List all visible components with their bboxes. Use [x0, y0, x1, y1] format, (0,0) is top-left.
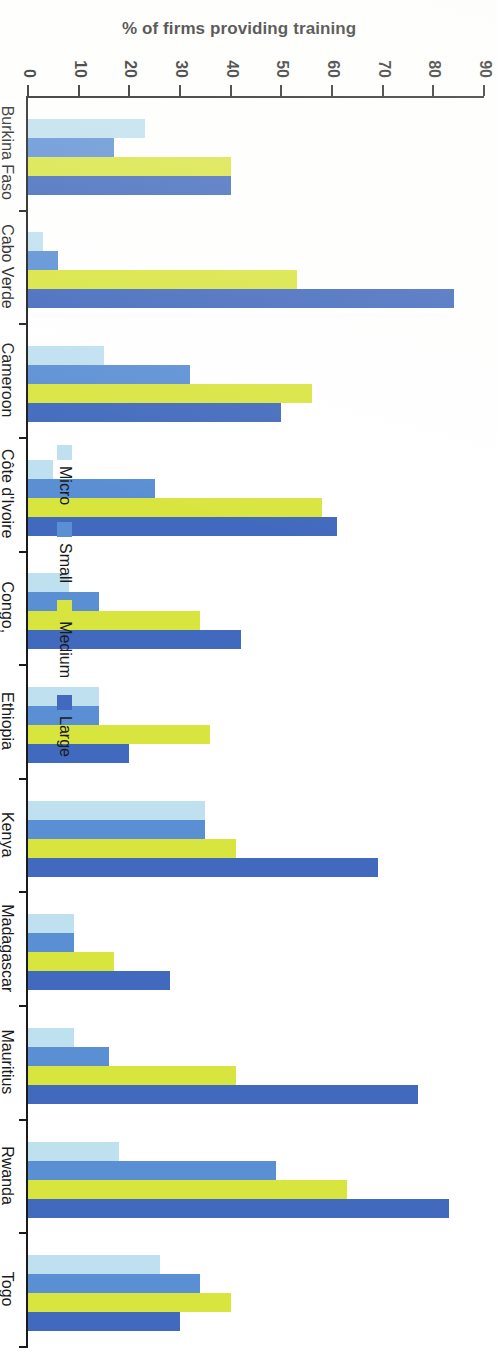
value-axis-tick-label: 80: [425, 42, 443, 78]
value-axis-tick-label: 50: [273, 42, 291, 78]
legend-item[interactable]: Small: [56, 522, 74, 583]
bar: [28, 1047, 109, 1066]
category-axis-tick: [19, 778, 28, 780]
category-axis-tick: [19, 1346, 28, 1348]
value-axis-tick: [483, 85, 485, 96]
category-axis-label: Madagascar: [0, 891, 16, 1005]
category-axis-tick: [19, 551, 28, 553]
value-axis-tick-label: 90: [476, 42, 494, 78]
category-axis-label: Congo, Dem. Rep.: [0, 551, 16, 665]
legend-label: Small: [56, 543, 74, 583]
category-axis-tick: [19, 1005, 28, 1007]
legend-item[interactable]: Medium: [56, 600, 74, 678]
legend-item[interactable]: Micro: [56, 445, 74, 505]
bar: [28, 1293, 231, 1312]
category-axis-label: Kenya: [0, 778, 16, 892]
bar: [28, 1028, 74, 1047]
value-axis-tick-label: 40: [223, 42, 241, 78]
category-axis-label: Togo: [0, 1232, 16, 1346]
category-axis-tick: [19, 1232, 28, 1234]
value-axis-tick: [128, 85, 130, 96]
legend-item[interactable]: Large: [56, 695, 74, 757]
value-axis-tick: [331, 85, 333, 96]
legend-label: Medium: [56, 621, 74, 678]
bar: [28, 138, 114, 157]
value-axis-tick-label: 70: [375, 42, 393, 78]
value-axis-tick: [280, 85, 282, 96]
category-axis-label: Côte d'Ivoire: [0, 437, 16, 551]
bar: [28, 820, 205, 839]
bar: [28, 1142, 119, 1161]
bar: [28, 270, 297, 289]
value-axis-tick: [78, 85, 80, 96]
value-axis-line: [26, 96, 484, 98]
bar: [28, 1199, 449, 1218]
category-axis-label: Rwanda: [0, 1119, 16, 1233]
category-axis-tick: [19, 437, 28, 439]
bar: [28, 251, 58, 270]
bar: [28, 1255, 160, 1274]
legend-swatch-icon: [58, 695, 73, 710]
chart-canvas: % of firms providing training 0102030405…: [0, 0, 498, 1352]
bar: [28, 744, 129, 763]
bar: [28, 1312, 180, 1331]
value-axis-tick: [382, 85, 384, 96]
bar: [28, 346, 104, 365]
bar: [28, 1085, 418, 1104]
bar: [28, 157, 231, 176]
value-axis-tick: [230, 85, 232, 96]
legend-swatch-icon: [58, 522, 73, 537]
bar: [28, 952, 114, 971]
category-axis-label: Burkina Faso: [0, 96, 16, 210]
value-axis-tick-label: 60: [324, 42, 342, 78]
bar: [28, 119, 145, 138]
bar: [28, 1161, 276, 1180]
bar: [28, 801, 205, 820]
category-axis-tick: [19, 323, 28, 325]
bar: [28, 384, 312, 403]
bar: [28, 1066, 236, 1085]
plot-area: % of firms providing training 0102030405…: [0, 0, 498, 1352]
bar: [28, 1180, 347, 1199]
bar: [28, 403, 281, 422]
value-axis-tick-label: 30: [172, 42, 190, 78]
bar: [28, 232, 43, 251]
legend-label: Large: [56, 716, 74, 757]
value-axis-title: % of firms providing training: [122, 19, 356, 39]
value-axis-tick: [179, 85, 181, 96]
rotated-page-wrapper: % of firms providing training 0102030405…: [0, 0, 498, 1352]
bar: [28, 289, 454, 308]
legend-swatch-icon: [58, 445, 73, 460]
category-axis-label: Mauritius: [0, 1005, 16, 1119]
bar: [28, 914, 74, 933]
category-axis-tick: [19, 664, 28, 666]
value-axis-tick-label: 10: [71, 42, 89, 78]
bar: [28, 479, 155, 498]
bar: [28, 858, 378, 877]
value-axis-tick: [432, 85, 434, 96]
bar: [28, 365, 190, 384]
bar: [28, 933, 74, 952]
bar: [28, 971, 170, 990]
category-axis-label: Cabo Verde: [0, 210, 16, 324]
bar: [28, 517, 337, 536]
value-axis-tick-label: 20: [121, 42, 139, 78]
legend-swatch-icon: [58, 600, 73, 615]
category-axis-tick: [19, 210, 28, 212]
bar: [28, 176, 231, 195]
value-axis-tick-label: 0: [20, 42, 38, 78]
category-axis-tick: [19, 1119, 28, 1121]
value-axis-tick: [27, 85, 29, 96]
category-axis-tick: [19, 891, 28, 893]
category-axis-label: Ethiopia: [0, 664, 16, 778]
bar: [28, 611, 200, 630]
legend-label: Micro: [56, 466, 74, 505]
category-axis-label: Cameroon: [0, 323, 16, 437]
bar: [28, 1274, 200, 1293]
bar: [28, 460, 53, 479]
bar: [28, 839, 236, 858]
chart-legend: MicroSmallMediumLarge: [56, 445, 74, 757]
